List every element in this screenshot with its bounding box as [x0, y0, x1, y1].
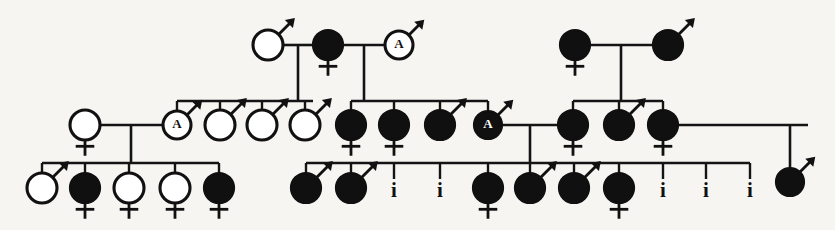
individual-iii-13[interactable]	[604, 173, 634, 219]
individual-iii-5[interactable]	[204, 173, 234, 219]
affected-circle[interactable]	[653, 30, 683, 60]
individual-ii-11[interactable]	[604, 98, 646, 140]
individual-ii-2[interactable]: A	[163, 100, 202, 139]
individual-label-a: A	[172, 116, 182, 131]
affected-circle[interactable]	[558, 110, 588, 140]
individual-iii-9[interactable]: i	[437, 178, 443, 202]
individual-iii-16[interactable]: i	[747, 178, 753, 202]
individual-i-4[interactable]	[560, 30, 590, 76]
individual-ii-12[interactable]	[648, 110, 678, 156]
individual-iii-17[interactable]	[776, 157, 815, 196]
affected-circle[interactable]	[560, 30, 590, 60]
individual-iii-15[interactable]: i	[703, 178, 709, 202]
individual-iii-12[interactable]	[559, 161, 601, 203]
unaffected-circle[interactable]	[205, 110, 235, 140]
affected-circle[interactable]	[559, 173, 589, 203]
individual-symbols: AAAiiiii	[27, 18, 815, 219]
affected-circle[interactable]	[291, 173, 321, 203]
individual-iii-1[interactable]	[27, 161, 69, 203]
affected-circle[interactable]	[473, 173, 503, 203]
individual-ii-10[interactable]	[558, 110, 588, 156]
individual-iii-3[interactable]	[114, 173, 144, 219]
individual-iii-4[interactable]	[160, 173, 190, 219]
individual-ii-5[interactable]	[290, 98, 332, 140]
individual-i-2[interactable]	[313, 30, 343, 76]
individual-iii-8[interactable]: i	[391, 178, 397, 202]
affected-circle[interactable]	[336, 173, 366, 203]
individual-i-5[interactable]	[653, 18, 695, 60]
individual-ii-1[interactable]	[70, 110, 100, 156]
affected-circle[interactable]	[336, 110, 366, 140]
unaffected-circle[interactable]	[27, 173, 57, 203]
unaffected-circle[interactable]	[247, 110, 277, 140]
individual-i-3[interactable]: A	[385, 20, 424, 59]
individual-iii-10[interactable]	[473, 173, 503, 219]
infant-death-label: i	[391, 178, 397, 202]
unaffected-circle[interactable]	[290, 110, 320, 140]
affected-circle[interactable]	[70, 173, 100, 203]
affected-circle[interactable]	[648, 110, 678, 140]
individual-label-a: A	[483, 116, 493, 131]
affected-circle[interactable]	[313, 30, 343, 60]
affected-circle[interactable]	[776, 168, 804, 196]
individual-ii-9[interactable]: A	[474, 100, 513, 139]
individual-ii-8[interactable]	[425, 98, 467, 140]
individual-label-a: A	[394, 36, 404, 51]
unaffected-circle[interactable]	[114, 173, 144, 203]
individual-ii-6[interactable]	[336, 110, 366, 156]
individual-i-1[interactable]	[253, 18, 295, 60]
infant-death-label: i	[703, 178, 709, 202]
affected-circle[interactable]	[204, 173, 234, 203]
individual-iii-7[interactable]	[336, 161, 378, 203]
pedigree-chart: AAAiiiii	[0, 0, 835, 230]
individual-iii-2[interactable]	[70, 173, 100, 219]
affected-circle[interactable]	[379, 110, 409, 140]
affected-circle[interactable]	[425, 110, 455, 140]
individual-ii-3[interactable]	[205, 98, 247, 140]
affected-circle[interactable]	[515, 173, 545, 203]
unaffected-circle[interactable]	[160, 173, 190, 203]
individual-iii-11[interactable]	[515, 161, 557, 203]
individual-ii-7[interactable]	[379, 110, 409, 156]
connector-lines	[42, 45, 808, 179]
pedigree-canvas: AAAiiiii	[0, 0, 835, 230]
affected-circle[interactable]	[604, 110, 634, 140]
infant-death-label: i	[747, 178, 753, 202]
unaffected-circle[interactable]	[253, 30, 283, 60]
individual-iii-6[interactable]	[291, 161, 333, 203]
unaffected-circle[interactable]	[70, 110, 100, 140]
individual-iii-14[interactable]: i	[660, 178, 666, 202]
affected-circle[interactable]	[604, 173, 634, 203]
infant-death-label: i	[437, 178, 443, 202]
individual-ii-4[interactable]	[247, 98, 289, 140]
infant-death-label: i	[660, 178, 666, 202]
